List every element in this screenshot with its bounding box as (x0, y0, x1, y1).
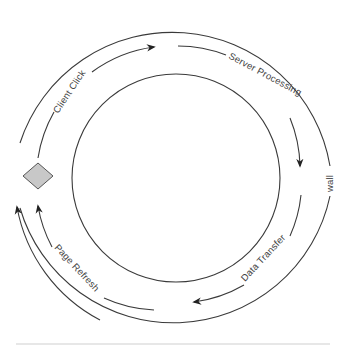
label-server-processing: Server Processing (227, 50, 304, 98)
outer-return-arrow (17, 207, 100, 320)
data-transfer-arc-start (290, 195, 301, 236)
client-click-arc-lower (38, 112, 54, 158)
label-data-transfer: Data Transfer (238, 232, 287, 283)
request-cycle-diagram: Client Click Server Processing Data Tran… (0, 0, 348, 355)
label-client-click: Client Click (51, 68, 88, 116)
label-wall: wall (324, 175, 335, 193)
server-processing-arc-start (178, 46, 226, 55)
server-processing-arrow (290, 118, 300, 166)
data-transfer-arrow (194, 285, 244, 302)
label-page-refresh: Page Refresh (53, 242, 102, 294)
page-refresh-arrow (38, 206, 52, 247)
client-diamond-node (23, 163, 53, 189)
page-refresh-arc-end (104, 298, 154, 310)
client-click-arrow (92, 47, 154, 72)
inner-circle (72, 74, 280, 282)
